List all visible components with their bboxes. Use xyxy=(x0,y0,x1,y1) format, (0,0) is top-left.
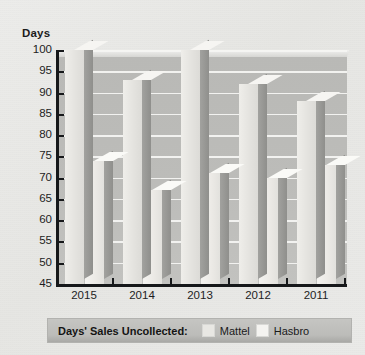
plot-area xyxy=(57,50,347,284)
y-axis-tick-label: 65 xyxy=(12,192,52,204)
bar-side xyxy=(84,40,93,279)
legend-label-mattel: Mattel xyxy=(220,325,250,337)
x-axis-tick xyxy=(112,278,114,286)
y-axis-tick xyxy=(57,199,64,201)
bar-side xyxy=(142,70,151,279)
y-axis-tick xyxy=(57,220,64,222)
legend-entry-hasbro[interactable]: Hasbro xyxy=(256,324,309,337)
bar-mattel-2013 xyxy=(181,50,200,284)
x-axis-tick-label: 2013 xyxy=(187,289,213,301)
y-axis-title: Days xyxy=(22,27,50,39)
y-axis-labels: 1009590858075706560555045 xyxy=(8,50,52,284)
y-axis-tick xyxy=(57,241,64,243)
y-axis-tick xyxy=(57,263,64,265)
legend-title: Days' Sales Uncollected: xyxy=(58,325,188,337)
y-axis-tick-label: 95 xyxy=(12,64,52,76)
x-axis-tick xyxy=(228,278,230,286)
y-axis-tick-label: 85 xyxy=(12,107,52,119)
y-axis-tick xyxy=(57,114,64,116)
bar-mattel-2012 xyxy=(239,84,258,284)
x-axis-tick-label: 2012 xyxy=(245,289,271,301)
bar-side xyxy=(200,40,209,279)
x-axis-tick xyxy=(170,278,172,286)
y-axis-tick xyxy=(57,93,64,95)
x-axis-labels: 20112012201320142015 xyxy=(57,289,347,309)
y-axis-tick-label: 60 xyxy=(12,213,52,225)
y-axis-tick xyxy=(57,156,64,158)
bar-side xyxy=(336,155,345,279)
y-axis-tick xyxy=(57,71,64,73)
bar-mattel-2014 xyxy=(123,80,142,284)
y-axis-tick-label: 90 xyxy=(12,86,52,98)
y-axis-tick xyxy=(57,178,64,180)
bar-face xyxy=(181,50,200,284)
bar-face xyxy=(123,80,142,284)
y-axis-tick-label: 70 xyxy=(12,171,52,183)
bar-face xyxy=(239,84,258,284)
y-axis-tick-label: 55 xyxy=(12,234,52,246)
x-axis-line xyxy=(56,284,347,287)
y-axis-tick xyxy=(57,135,64,137)
y-axis-tick xyxy=(57,50,64,52)
chart-legend: Days' Sales Uncollected: MattelHasbro xyxy=(47,318,352,343)
bar-top xyxy=(190,41,225,50)
y-axis-tick-label: 45 xyxy=(12,277,52,289)
x-axis-tick xyxy=(286,278,288,286)
bar-side xyxy=(162,180,171,279)
bar-chart-figure: Days 1009590858075706560555045 201120122… xyxy=(0,0,365,355)
legend-entries: MattelHasbro xyxy=(196,324,309,337)
legend-label-hasbro: Hasbro xyxy=(274,325,309,337)
bar-top xyxy=(74,41,109,50)
x-axis-tick-label: 2011 xyxy=(304,289,329,301)
x-axis-tick-label: 2015 xyxy=(71,289,97,301)
y-axis-tick-label: 80 xyxy=(12,128,52,140)
bar-side xyxy=(258,74,267,279)
bar-side xyxy=(104,150,113,279)
bar-face xyxy=(65,50,84,284)
y-axis-line xyxy=(56,50,59,286)
bar-side xyxy=(220,163,229,279)
bar-mattel-2011 xyxy=(297,101,316,284)
bar-face xyxy=(297,101,316,284)
legend-swatch-mattel xyxy=(202,324,215,337)
y-axis-tick-label: 75 xyxy=(12,149,52,161)
y-axis-tick-label: 50 xyxy=(12,256,52,268)
legend-entry-mattel[interactable]: Mattel xyxy=(202,324,250,337)
y-axis-tick-label: 100 xyxy=(12,43,52,55)
bar-mattel-2015 xyxy=(65,50,84,284)
x-axis-tick xyxy=(344,278,346,286)
x-axis-tick-label: 2014 xyxy=(129,289,155,301)
bar-side xyxy=(316,91,325,279)
legend-swatch-hasbro xyxy=(256,324,269,337)
bar-side xyxy=(278,167,287,279)
